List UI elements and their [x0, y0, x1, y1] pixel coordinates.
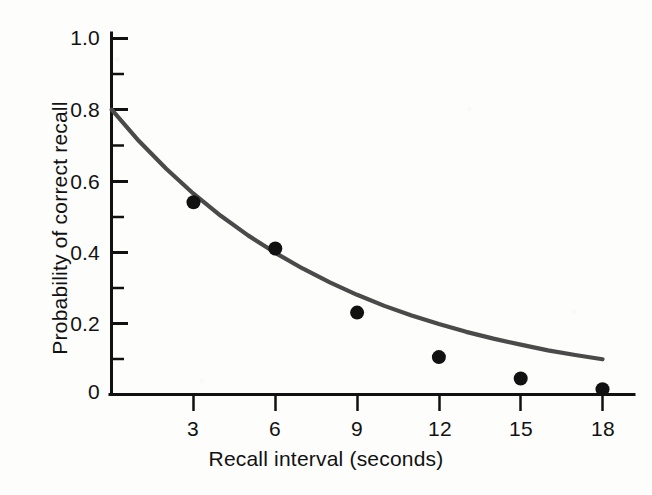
y-axis-major-ticks [111, 39, 128, 324]
y-axis-title: Probability of correct recall [48, 63, 72, 393]
x-tick-label-18: 18 [591, 417, 615, 441]
x-tick-label-12: 12 [428, 417, 452, 441]
data-point [350, 306, 364, 320]
fitted-decay-curve [112, 110, 603, 360]
x-tick-label-9: 9 [351, 417, 363, 441]
data-point [432, 350, 446, 364]
x-axis-ticks [194, 394, 603, 411]
x-axis-title: Recall interval (seconds) [0, 447, 652, 471]
data-point [596, 382, 610, 396]
x-tick-label-6: 6 [269, 417, 281, 441]
x-tick-label-3: 3 [187, 417, 199, 441]
data-point-group [187, 195, 610, 396]
data-point [268, 242, 282, 256]
x-tick-label-15: 15 [509, 417, 533, 441]
data-point [187, 195, 201, 209]
data-point [514, 371, 528, 385]
chart-figure: 1.0 0.8 0.6 0.4 0.2 0 3 6 9 12 15 18 Rec… [0, 0, 652, 495]
y-tick-label-1-0: 1.0 [38, 26, 100, 50]
